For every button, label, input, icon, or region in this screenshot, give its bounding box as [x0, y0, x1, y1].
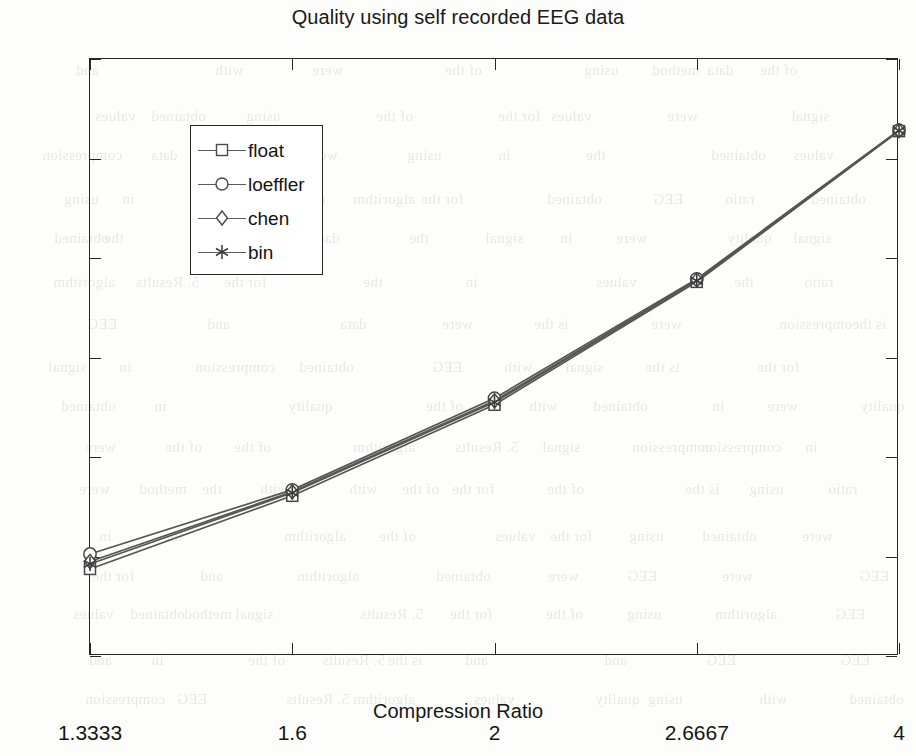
x-tick-label: 4 — [893, 721, 905, 745]
legend-entry-bin: bin — [191, 235, 322, 269]
plot-area: 024681012 1.33331.622.66674 float — [89, 58, 898, 655]
legend-entry-float: float — [191, 133, 322, 167]
legend-marker-square-icon — [198, 142, 246, 158]
legend-entry-loeffler: loeffler — [191, 167, 322, 201]
x-tick-label: 2 — [489, 721, 501, 745]
chart-title: Quality using self recorded EEG data — [0, 6, 916, 29]
x-tick-label: 1.3333 — [58, 721, 122, 745]
legend-label-bin: bin — [248, 243, 273, 262]
chart-legend: float loeffler chen — [190, 125, 323, 275]
x-tick — [899, 59, 900, 70]
y-tick — [90, 656, 101, 657]
legend-label-float: float — [248, 141, 284, 160]
legend-marker-diamond-icon — [198, 210, 246, 226]
legend-entry-chen: chen — [191, 201, 322, 235]
x-axis-title: Compression Ratio — [0, 700, 916, 723]
chart-figure: Quality using self recorded EEG data PRD… — [0, 0, 916, 756]
legend-label-loeffler: loeffler — [248, 175, 305, 194]
x-tick-label: 1.6 — [278, 721, 307, 745]
legend-marker-star-icon — [198, 244, 246, 260]
x-tick-label: 2.6667 — [665, 721, 729, 745]
x-tick — [899, 643, 900, 654]
y-tick — [886, 656, 897, 657]
legend-label-chen: chen — [248, 209, 289, 228]
legend-marker-circle-icon — [198, 176, 246, 192]
